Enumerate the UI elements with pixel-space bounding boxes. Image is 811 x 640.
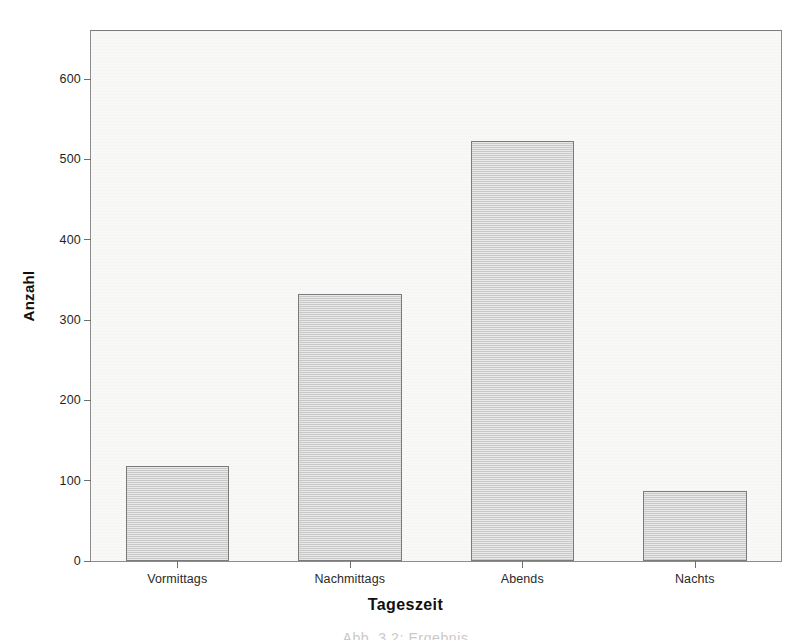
figure-caption: Abb. 3.2: Ergebnis xyxy=(0,630,811,640)
y-axis-tick: 200 xyxy=(60,393,91,407)
plot-area: 0100200300400500600VormittagsNachmittags… xyxy=(90,30,782,562)
y-axis-tick-mark xyxy=(84,400,91,401)
y-axis-tick-label: 300 xyxy=(60,313,84,327)
y-axis-tick-mark xyxy=(84,320,91,321)
y-axis-tick: 600 xyxy=(60,72,91,86)
x-axis-tick-label: Abends xyxy=(501,572,544,586)
bar xyxy=(471,141,575,561)
y-axis-tick-mark xyxy=(84,79,91,80)
y-axis-tick: 0 xyxy=(74,554,91,568)
y-axis-tick: 500 xyxy=(60,152,91,166)
y-axis-tick-label: 500 xyxy=(60,152,84,166)
y-axis-tick-label: 600 xyxy=(60,72,84,86)
y-axis-tick-mark xyxy=(84,480,91,481)
x-axis-tick-label: Nachmittags xyxy=(314,572,385,586)
y-axis-tick: 400 xyxy=(60,233,91,247)
y-axis-tick-label: 100 xyxy=(60,474,84,488)
x-axis-tick-label: Vormittags xyxy=(147,572,207,586)
y-axis-tick-mark xyxy=(84,159,91,160)
x-axis-tick-mark xyxy=(177,561,178,568)
x-axis-tick-mark xyxy=(350,561,351,568)
y-axis-tick-label: 200 xyxy=(60,393,84,407)
bar xyxy=(126,466,230,561)
x-axis-tick-mark xyxy=(522,561,523,568)
y-axis-tick-label: 0 xyxy=(74,554,84,568)
bar xyxy=(643,491,747,561)
x-axis-tick-label: Nachts xyxy=(675,572,715,586)
bar xyxy=(298,294,402,561)
x-axis-title: Tageszeit xyxy=(0,596,811,614)
y-axis-tick: 300 xyxy=(60,313,91,327)
y-axis-tick-mark xyxy=(84,239,91,240)
y-axis-title: Anzahl xyxy=(20,271,37,322)
y-axis-tick-mark xyxy=(84,561,91,562)
x-axis-tick-mark xyxy=(695,561,696,568)
y-axis-tick-label: 400 xyxy=(60,233,84,247)
y-axis-tick: 100 xyxy=(60,474,91,488)
bar-chart-figure: 0100200300400500600VormittagsNachmittags… xyxy=(0,0,811,640)
